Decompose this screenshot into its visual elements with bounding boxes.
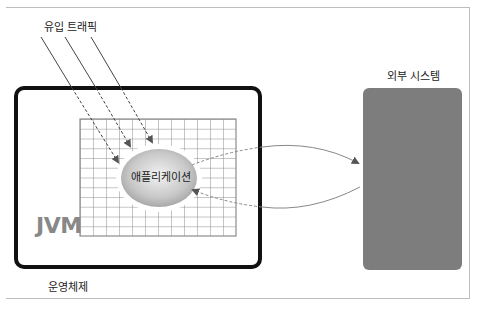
jvm-label: JVM [36,213,82,238]
diagram-graphics [0,0,478,309]
application-label: 애플리케이션 [114,168,208,184]
